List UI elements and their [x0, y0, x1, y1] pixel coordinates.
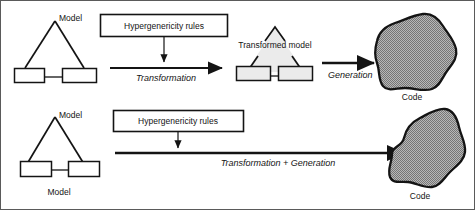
bottom-model-box-left	[21, 162, 52, 177]
bottom-rules-box-label: Hypergenericity rules	[138, 116, 218, 126]
top-rules-box-label: Hypergenericity rules	[124, 21, 204, 31]
bottom-model-triangle-right-edge	[55, 117, 84, 164]
diagram-canvas: Model Hypergenericity rules Transformati…	[0, 0, 475, 210]
model-box-right	[63, 69, 97, 83]
bottom-rules-box: Hypergenericity rules	[114, 111, 244, 132]
transformed-model-label: Transformed model	[238, 40, 311, 50]
top-source-model	[15, 21, 97, 83]
bottom-code-label: Code	[410, 191, 431, 201]
model-box-left	[15, 69, 45, 83]
transformation-arrow-label: Transformation	[136, 73, 196, 83]
transformed-model-triangle-fill	[246, 28, 304, 72]
top-code-blob	[375, 14, 456, 90]
model-triangle-left-edge	[25, 21, 55, 68]
transformed-model	[237, 27, 313, 81]
transformed-model-box-left	[237, 67, 271, 81]
bottom-source-model-caption: Model	[47, 187, 70, 197]
bottom-source-model-label: Model	[59, 110, 82, 120]
transformed-model-box-right	[279, 67, 313, 81]
bottom-source-model	[21, 117, 100, 177]
bottom-model-triangle-left-edge	[27, 117, 55, 164]
diagram-svg: Model Hypergenericity rules Transformati…	[0, 0, 475, 210]
top-code-label: Code	[402, 92, 423, 102]
top-code-blob-shape	[375, 14, 456, 90]
transformation-generation-arrow-label: Transformation + Generation	[221, 158, 336, 168]
bottom-code-blob	[389, 109, 465, 187]
generation-arrow-label: Generation	[328, 70, 373, 80]
bottom-code-blob-shape	[389, 109, 465, 187]
model-triangle-right-edge	[55, 21, 84, 68]
top-rules-box: Hypergenericity rules	[101, 15, 228, 37]
bottom-model-box-right	[69, 162, 100, 177]
top-source-model-label: Model	[59, 13, 82, 23]
